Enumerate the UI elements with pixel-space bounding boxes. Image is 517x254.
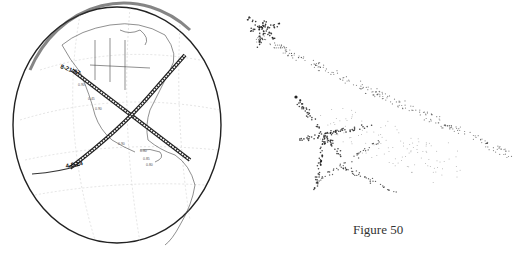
map-value: 0.80: [146, 163, 153, 167]
map-value: 0.90: [118, 142, 125, 146]
eclipse-globe-map: 8-21-17 4-8-24 0.90 0.45 0.90 0.90 0.80 …: [0, 0, 230, 254]
map-value: 0.85: [143, 157, 150, 161]
map-value: 0.45: [88, 97, 95, 101]
dot-pattern-illustration: [230, 0, 517, 254]
map-value: 0.80: [140, 149, 147, 153]
map-value: 0.90: [95, 107, 102, 111]
globe-illustration: 8-21-17 4-8-24 0.90 0.45 0.90 0.90 0.80 …: [0, 0, 230, 254]
map-value: 0.90: [78, 83, 85, 87]
stipple-dots: [230, 0, 517, 254]
figure-caption: Figure 50: [353, 222, 403, 238]
